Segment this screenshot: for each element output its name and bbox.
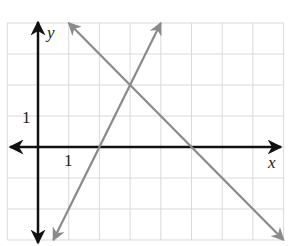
y-tick-label: 1 xyxy=(22,108,31,127)
x-axis-label: x xyxy=(267,153,276,172)
line-decreasing xyxy=(69,23,284,240)
x-tick-label: 1 xyxy=(64,151,73,170)
y-axis-label: y xyxy=(45,23,55,42)
graph: y x 1 1 xyxy=(0,0,289,246)
line-increasing xyxy=(53,23,160,240)
